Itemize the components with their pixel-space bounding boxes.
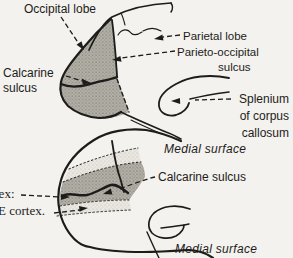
medial-surface-caption-top: Medial surface <box>164 142 246 156</box>
splenium-label-line1: Splenium <box>239 91 289 108</box>
splenium-arrowhead <box>171 98 180 104</box>
parietal-sulcus-squiggle <box>118 30 142 35</box>
splenium-label-line2: of corpus <box>239 108 289 125</box>
calcarine-sulcus-label-bottom: Calcarine sulcus <box>158 170 246 184</box>
left-label-fragment-bottom: E cortex. <box>0 204 45 218</box>
marginal-sulcus-tick <box>121 13 125 25</box>
parietal-lobe-leader <box>163 35 180 37</box>
splenium-leader <box>195 99 231 100</box>
occipital-lobe-leader <box>61 17 79 44</box>
occipital-lobe-label: Occipital lobe <box>24 2 96 16</box>
left-fragment-top-leader <box>21 195 62 197</box>
calcarine-label-line1: Calcarine <box>3 66 54 80</box>
parieto-occipital-leader <box>121 51 175 58</box>
parieto-occipital-label-line1: Parieto-occipital <box>177 45 259 59</box>
anatomy-figure: Occipital lobe Parietal lobe Parieto-occ… <box>0 0 293 258</box>
medial-surface-caption-bottom: Medial surface <box>175 242 257 256</box>
occipital-arrowhead <box>77 41 85 50</box>
calcarine-label-line2: sulcus <box>3 81 37 95</box>
parietal-arrowhead <box>154 35 164 41</box>
left-label-fragment-top: tex: <box>0 187 15 201</box>
parietal-lobe-label: Parietal lobe <box>183 29 247 43</box>
splenium-label-line3: callosum <box>239 125 289 142</box>
splenium-outline <box>159 76 229 116</box>
parieto-occipital-label-line2: sulcus <box>218 60 251 74</box>
top-brain-drawing <box>60 3 229 139</box>
splenium-label: Splenium of corpus callosum <box>239 91 289 142</box>
